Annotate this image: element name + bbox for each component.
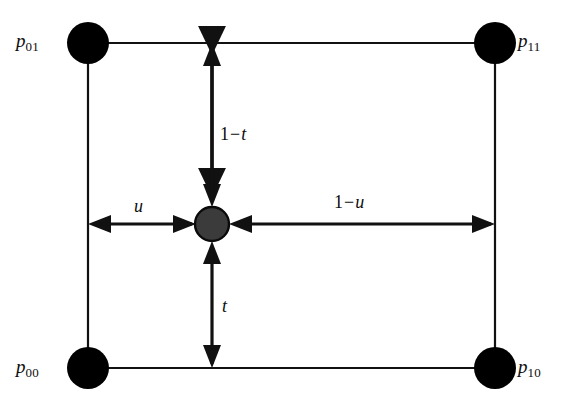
label-p00-symbol: p <box>16 356 26 377</box>
label-p10: p10 <box>518 357 541 379</box>
interior-point <box>195 207 229 241</box>
label-one-minus-u-operator: − <box>343 192 355 212</box>
label-one-minus-u-number: 1 <box>334 192 343 212</box>
label-p11-subscript: 11 <box>528 39 541 54</box>
rectangle-outline <box>88 43 495 368</box>
label-p00: p00 <box>16 357 39 379</box>
label-one-minus-t-number: 1 <box>220 124 229 144</box>
measurement-arrows <box>88 43 495 368</box>
label-p01-subscript: 01 <box>26 39 39 54</box>
node-p00 <box>67 347 109 389</box>
node-p11 <box>474 22 516 64</box>
node-p10 <box>474 347 516 389</box>
label-p01-symbol: p <box>16 30 26 51</box>
label-p11: p11 <box>518 31 540 53</box>
label-p00-subscript: 00 <box>26 365 39 380</box>
label-u: u <box>134 197 143 215</box>
label-t: t <box>222 297 227 315</box>
label-one-minus-u-variable: u <box>355 192 364 212</box>
label-one-minus-t-variable: t <box>241 124 246 144</box>
label-p10-subscript: 10 <box>528 365 541 380</box>
label-t-variable: t <box>222 296 227 316</box>
label-one-minus-t-operator: − <box>229 124 241 144</box>
label-u-variable: u <box>134 196 143 216</box>
label-one-minus-t: 1−t <box>220 125 246 143</box>
bilinear-interpolation-diagram <box>0 0 579 411</box>
label-p11-symbol: p <box>518 30 528 51</box>
label-p10-symbol: p <box>518 356 528 377</box>
node-p01 <box>67 22 109 64</box>
diagram-canvas: p01 p11 p00 p10 u 1−u 1−t t <box>0 0 579 411</box>
label-one-minus-u: 1−u <box>334 193 364 211</box>
label-p01: p01 <box>16 31 39 53</box>
